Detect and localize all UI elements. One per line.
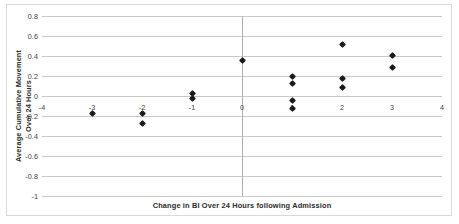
data-point-marker <box>288 72 295 79</box>
x-tick-label: 4 <box>440 103 444 112</box>
chart-figure: 0.80.60.40.20-0.2-0.4-0.6-0.8-1-4-3-2-10… <box>0 0 459 224</box>
x-tick-label: 3 <box>390 103 394 112</box>
y-axis-title-line2: Over 24 Hours <box>24 80 34 132</box>
x-axis-title: Change in BI Over 24 Hours following Adm… <box>42 201 442 210</box>
data-point-marker <box>238 56 245 63</box>
x-tick-label: 0 <box>240 103 244 112</box>
data-point-marker <box>338 83 345 90</box>
x-tick-label: -4 <box>39 103 46 112</box>
y-axis-title: Average Cumulative Movement Over 24 Hour… <box>12 16 36 196</box>
data-point-marker <box>388 51 395 58</box>
x-tick-label: 2 <box>340 103 344 112</box>
y-axis-title-line1: Average Cumulative Movement <box>14 50 24 162</box>
x-tick-label: -1 <box>189 103 196 112</box>
data-point-marker <box>338 40 345 47</box>
plot-area: 0.80.60.40.20-0.2-0.4-0.6-0.8-1-4-3-2-10… <box>42 16 442 196</box>
data-point-marker <box>388 63 395 70</box>
data-point-marker <box>138 119 145 126</box>
data-point-marker <box>288 79 295 86</box>
gridline-horizontal <box>42 196 442 197</box>
